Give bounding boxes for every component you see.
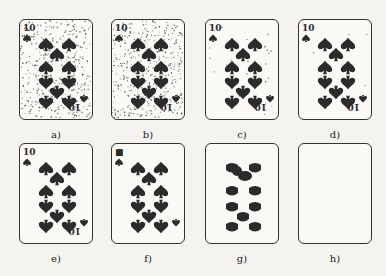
card-image: 1010: [111, 19, 185, 120]
svg-text:10: 10: [115, 23, 128, 33]
svg-text:10: 10: [209, 23, 222, 33]
card-image: 1010: [19, 143, 93, 244]
panel-label: g): [205, 253, 279, 264]
card-image: 1010: [298, 19, 372, 120]
svg-text:10: 10: [347, 102, 360, 112]
panel-label: b): [111, 129, 185, 140]
svg-text:10: 10: [68, 102, 81, 112]
card-image: 1010: [19, 19, 93, 120]
panel-label: a): [19, 129, 93, 140]
svg-text:■: ■: [115, 147, 124, 157]
panel-label: c): [205, 129, 279, 140]
panel-label: h): [298, 253, 372, 264]
card-image: ■: [111, 143, 185, 244]
svg-text:10: 10: [302, 23, 315, 33]
svg-text:10: 10: [23, 147, 36, 157]
card-image: [298, 143, 372, 244]
card-image: [205, 143, 279, 244]
svg-text:10: 10: [23, 23, 36, 33]
panel-label: e): [19, 253, 93, 264]
panel-label: f): [111, 253, 185, 264]
panel-label: d): [298, 129, 372, 140]
card-image: 1010: [205, 19, 279, 120]
svg-text:10: 10: [68, 226, 81, 236]
svg-text:10: 10: [160, 102, 173, 112]
svg-text:10: 10: [254, 102, 267, 112]
